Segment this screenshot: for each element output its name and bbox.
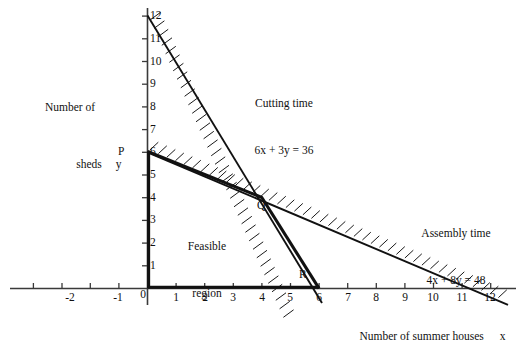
vertex-label-r: R: [299, 268, 307, 280]
cutting-time-annotation: Cutting time 6x + 3y = 36: [224, 65, 344, 189]
x-tick-label: 7: [338, 291, 358, 303]
y-tick-label: 5: [150, 168, 164, 180]
cutting-time-name: Cutting time: [224, 96, 344, 112]
y-tick-label: 7: [150, 123, 164, 135]
x-tick-label: 6: [309, 291, 329, 303]
y-tick-label: 6: [150, 145, 164, 157]
y-tick-label: 4: [150, 191, 164, 203]
graph-canvas: -2 -1 0 1 2 3 4 5 6 7 8 9 10 11 12 1 2 3…: [0, 0, 526, 345]
y-axis-variable: y: [116, 158, 122, 170]
assembly-time-name: Assembly time: [397, 226, 515, 242]
x-axis-variable: x: [500, 330, 506, 342]
x-tick-label: 8: [366, 291, 386, 303]
y-axis-caption-line1: Number of: [45, 100, 122, 114]
boundary-edge-qr: [262, 197, 320, 288]
x-axis-caption-text: Number of summer houses: [360, 330, 484, 342]
y-tick-label: 12: [150, 9, 168, 21]
feasible-region-label: Feasible region: [168, 208, 246, 332]
y-tick-label: 10: [150, 55, 168, 67]
x-tick-label: 4: [252, 291, 272, 303]
x-tick-label: 0: [133, 288, 153, 300]
y-axis-ticks: [142, 16, 148, 266]
assembly-time-annotation: Assembly time 4x + 8y = 48: [397, 195, 515, 319]
x-tick-label: -2: [60, 291, 80, 303]
feasible-region-label-line1: Feasible: [168, 239, 246, 255]
vertex-label-q: Q: [257, 199, 265, 211]
y-tick-label: 8: [150, 100, 164, 112]
y-tick-label: 9: [150, 77, 164, 89]
feasible-region-label-line2: region: [168, 286, 246, 302]
y-tick-label: 3: [150, 213, 164, 225]
y-tick-label: 2: [150, 236, 164, 248]
vertex-label-p: P: [118, 145, 124, 157]
y-axis-caption-line2: sheds: [76, 158, 102, 170]
cutting-time-equation: 6x + 3y = 36: [224, 143, 344, 159]
y-tick-label: 11: [150, 32, 168, 44]
y-axis-caption: Number of shedsy: [45, 71, 122, 215]
x-tick-label: 5: [280, 291, 300, 303]
x-axis-caption: Number of summer housesx: [348, 315, 506, 345]
x-tick-label: -1: [108, 291, 128, 303]
assembly-time-equation: 4x + 8y = 48: [397, 273, 515, 289]
y-tick-label: 1: [150, 259, 164, 271]
